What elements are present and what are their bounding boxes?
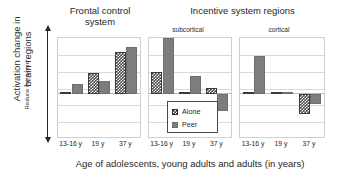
bar-subcortical-19y-peer	[190, 76, 201, 94]
legend-label-alone: Alone	[182, 107, 200, 116]
x-tick-label: 37 y	[198, 140, 234, 147]
gridline	[240, 105, 324, 106]
gridline	[240, 122, 324, 123]
panel-cortical	[239, 37, 325, 138]
legend-item-alone: Alone	[172, 105, 217, 118]
x-axis-title: Age of adolescents, young adults and adu…	[40, 158, 340, 169]
bar--13-16y-peer	[72, 84, 83, 94]
gridline	[240, 72, 324, 73]
bar-cortical-13-16y-alone	[243, 92, 254, 94]
panel-frontal	[57, 37, 141, 138]
panel-subtitle-subcortical: subcortical	[148, 26, 228, 33]
panel-title-frontal: Frontal control system	[55, 6, 145, 27]
bar--37y-peer	[126, 47, 137, 94]
bar-cortical-19y-peer	[282, 92, 293, 94]
bar-cortical-19y-alone	[271, 92, 282, 94]
gridline	[149, 55, 231, 56]
bar-cortical-37y-alone	[299, 94, 310, 114]
bar--19y-alone	[88, 73, 99, 93]
bar-subcortical-19y-alone	[179, 92, 190, 94]
bar-subcortical-13-16y-peer	[163, 38, 174, 93]
bar-subcortical-37y-alone	[206, 88, 217, 93]
panel-title-incentive: Incentive system regions	[150, 6, 335, 17]
legend-label-peer: Peer	[182, 120, 197, 129]
panel-subtitle-cortical: cortical	[238, 26, 320, 33]
bar-cortical-37y-peer	[310, 94, 321, 104]
bar--37y-alone	[115, 52, 126, 94]
gridline	[58, 105, 140, 106]
gridline	[240, 55, 324, 56]
solid-gray-swatch-icon	[172, 122, 178, 128]
y-axis-title-line1: Activation change in	[11, 16, 22, 101]
figure-canvas: Frontal control system Incentive system …	[0, 0, 341, 179]
x-tick-label: 37 y	[291, 140, 327, 147]
x-tick-label: 37 y	[107, 140, 143, 147]
bar-cortical-13-16y-peer	[254, 56, 265, 93]
gridline	[240, 89, 324, 90]
bar--13-16y-alone	[60, 92, 71, 94]
bar-subcortical-13-16y-alone	[151, 72, 162, 94]
double-arrow-icon	[47, 30, 48, 138]
y-axis-direction-label: Reduce increased	[24, 50, 30, 120]
legend-item-peer: Peer	[172, 118, 217, 131]
checkered-swatch-icon	[172, 109, 178, 115]
bar--19y-peer	[99, 81, 110, 94]
gridline	[58, 122, 140, 123]
bar-subcortical-37y-peer	[217, 94, 228, 111]
legend: Alone Peer	[167, 101, 218, 133]
